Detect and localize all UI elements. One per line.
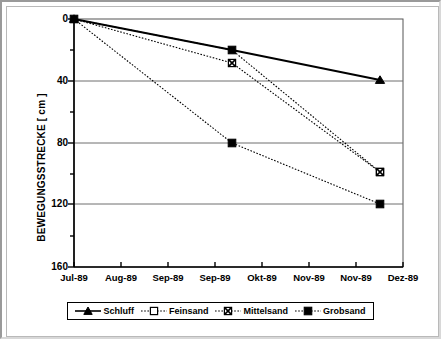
legend-item-mittelsand[interactable]: Mittelsand — [215, 305, 288, 317]
legend-item-grobsand[interactable]: Grobsand — [295, 305, 366, 317]
filled-triangle-icon — [75, 305, 101, 317]
y-axis-ticks — [68, 19, 74, 267]
legend-label-feinsand: Feinsand — [169, 306, 209, 316]
legend-label-grobsand: Grobsand — [323, 306, 366, 316]
plot-svg — [0, 0, 441, 339]
legend-item-feinsand[interactable]: Feinsand — [141, 305, 209, 317]
open-square-icon — [141, 305, 167, 317]
chart-legend: Schluff Feinsand Mittelsand Grobsand — [67, 302, 374, 320]
chart-canvas: BEWEGUNGSSTRECKE [ cm ] 0 40 80 120 160 … — [0, 0, 441, 339]
crossed-square-icon — [215, 305, 241, 317]
filled-square-icon — [295, 305, 321, 317]
legend-item-schluff[interactable]: Schluff — [75, 305, 134, 317]
legend-label-schluff: Schluff — [103, 306, 134, 316]
legend-label-mittelsand: Mittelsand — [243, 306, 288, 316]
